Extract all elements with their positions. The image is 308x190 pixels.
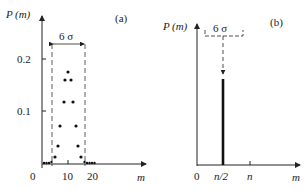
ylabel-a-m: (m) — [15, 8, 31, 21]
panel-label-b: (b) — [270, 16, 283, 29]
panel-label-a: (a) — [115, 12, 128, 25]
ytick-label-0.2: 0.2 — [17, 53, 31, 65]
xtick-label-0-b: 0 — [194, 170, 200, 182]
xtick-label-n: n — [247, 170, 253, 182]
panel-b: P (m) (b) 6 σ 0 n/2 n m — [162, 16, 300, 183]
xtick-label-0-a: 0 — [30, 170, 36, 182]
xtick-label-n-half: n/2 — [214, 170, 229, 182]
xtick-label-20: 20 — [87, 170, 99, 182]
sigma-label-b: 6 σ — [213, 22, 227, 34]
ylabel-a-p: P — [5, 8, 13, 20]
panel-a: P (m) (a) 6 σ 0.2 0.1 0 10 20 m — [5, 8, 146, 183]
ytick-label-0.1: 0.1 — [17, 105, 31, 117]
xtick-label-10: 10 — [62, 170, 74, 182]
ylabel-b-m: (m) — [172, 20, 188, 33]
figure: P (m) (a) 6 σ 0.2 0.1 0 10 20 m P (m) (b… — [0, 0, 308, 190]
ylabel-b-p: P — [162, 20, 170, 32]
data-points-a — [43, 70, 96, 164]
sigma-label-a: 6 σ — [59, 30, 73, 42]
xlabel-a: m — [137, 171, 145, 183]
xlabel-b: m — [292, 171, 300, 183]
